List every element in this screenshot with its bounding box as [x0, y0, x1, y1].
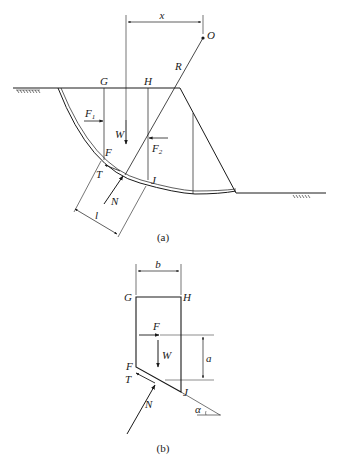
label-b: b	[155, 258, 161, 270]
label-a: a	[206, 352, 212, 364]
label-N: N	[110, 195, 119, 207]
angle-arc-icon	[206, 411, 207, 415]
label-W: W	[115, 128, 125, 140]
radius-R	[125, 38, 203, 175]
label-F2: F2	[151, 142, 163, 156]
label-F: F	[104, 146, 112, 158]
label-O: O	[207, 29, 215, 41]
label-H: H	[182, 291, 192, 303]
l-dimension-ext-2	[118, 186, 146, 237]
label-alpha: α	[195, 403, 201, 415]
label-F-force: F	[152, 320, 160, 332]
label-H: H	[143, 75, 153, 87]
l-dimension-ext-1	[74, 161, 101, 212]
label-R: R	[174, 60, 182, 72]
slope-face	[180, 88, 236, 193]
label-F: F	[125, 360, 133, 372]
label-N: N	[144, 398, 153, 410]
label-G: G	[124, 291, 132, 303]
label-T: T	[96, 168, 103, 180]
label-x: x	[159, 9, 165, 21]
part-b-slice-free-body: b G H F W a F T J α N (b)	[124, 258, 221, 455]
ground-hatch-right-icon	[293, 195, 310, 198]
slip-surface-arc	[58, 88, 236, 194]
slope-stability-diagram: x O R G H F1 W F2 F T J N l (a)	[0, 0, 339, 466]
caption-b: (b)	[157, 442, 170, 455]
label-W: W	[162, 349, 172, 361]
label-l: l	[95, 209, 98, 221]
label-T: T	[125, 373, 132, 385]
ground-hatch-left-icon	[16, 90, 40, 93]
part-a-slice-method: x O R G H F1 W F2 F T J N l (a)	[13, 9, 326, 244]
label-F1: F1	[84, 107, 95, 121]
caption-a: (a)	[157, 231, 170, 244]
shear-T-arrow	[136, 373, 155, 383]
label-G: G	[100, 75, 108, 87]
